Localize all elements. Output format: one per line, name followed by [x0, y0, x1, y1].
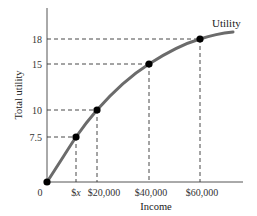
point-x: [72, 133, 79, 140]
utility-chart: 18 15 10 7.5 0 $x $20,000 $40,000 $60,00…: [0, 0, 257, 216]
x-tick-60000: $60,000: [186, 187, 219, 198]
guide-lines: [47, 39, 200, 182]
origin-label: 0: [38, 187, 43, 198]
x-tick-x: $x: [71, 187, 81, 198]
y-tick-10: 10: [32, 105, 42, 116]
point-60000: [196, 35, 203, 42]
y-tick-7-5: 7.5: [30, 132, 43, 143]
x-tick-20000: $20,000: [88, 187, 121, 198]
point-20000: [93, 106, 100, 113]
y-tick-15: 15: [32, 59, 42, 70]
curve-label: Utility: [212, 17, 241, 29]
point-40000: [145, 60, 152, 67]
x-axis-label: Income: [140, 201, 172, 212]
y-axis-label: Total utility: [13, 70, 24, 120]
x-tick-40000: $40,000: [135, 187, 168, 198]
point-origin: [43, 178, 50, 185]
data-points: [43, 35, 203, 185]
y-tick-18: 18: [32, 34, 42, 45]
utility-curve: [47, 32, 233, 182]
